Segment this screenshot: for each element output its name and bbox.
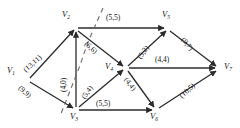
node-label-v1: V1: [7, 66, 15, 75]
edge-label-v3-v2: (4,0): [60, 78, 68, 92]
edge-label-v3-v6: (5,5): [96, 100, 110, 108]
node-label-v6: V6: [150, 112, 158, 121]
node-label-v2: V2: [62, 10, 70, 19]
node-label-v3: V3: [70, 112, 78, 121]
node-label-v7: V7: [224, 62, 232, 71]
edge-label-v2-v5: (5,5): [106, 14, 120, 22]
node-label-v5: V5: [162, 10, 170, 19]
diagram-canvas: V1 V2 V3 V4 V5 V6 V7 (13,11) (9,9) (4,0)…: [0, 0, 240, 128]
edge-label-v4-v7: (4,4): [155, 56, 169, 64]
node-label-v4: V4: [105, 62, 113, 71]
